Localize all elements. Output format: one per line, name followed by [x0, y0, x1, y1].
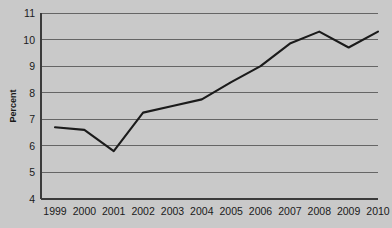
x-tick-label-2007: 2007 [278, 205, 302, 217]
x-tick-label-1999: 1999 [43, 205, 67, 217]
y-tick-label-5: 5 [29, 166, 35, 178]
y-tick-label-9: 9 [29, 60, 35, 72]
x-tick-label-2009: 2009 [337, 205, 361, 217]
plot-area-background [41, 13, 378, 199]
y-axis-title: Percent [8, 89, 18, 122]
y-tick-label-7: 7 [29, 113, 35, 125]
y-tick-label-10: 10 [23, 34, 35, 46]
x-tick-label-2000: 2000 [73, 205, 97, 217]
x-tick-label-2001: 2001 [102, 205, 126, 217]
x-tick-label-2003: 2003 [161, 205, 185, 217]
x-tick-label-2006: 2006 [249, 205, 273, 217]
y-tick-label-11: 11 [24, 7, 35, 19]
line-chart: 11 10 9 8 7 6 5 4 1999 2000 2001 2002 20… [0, 0, 392, 228]
x-tick-label-2004: 2004 [190, 205, 214, 217]
y-tick-label-8: 8 [29, 87, 35, 99]
x-tick-label-2010: 2010 [366, 205, 390, 217]
y-tick-label-4: 4 [29, 193, 35, 205]
x-tick-label-2008: 2008 [308, 205, 332, 217]
chart-container: 11 10 9 8 7 6 5 4 1999 2000 2001 2002 20… [0, 0, 392, 228]
x-tick-label-2005: 2005 [220, 205, 244, 217]
y-tick-label-6: 6 [29, 140, 35, 152]
x-tick-label-2002: 2002 [131, 205, 155, 217]
